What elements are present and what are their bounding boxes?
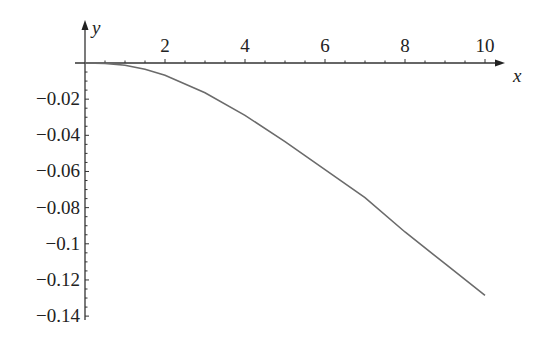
x-axis-label: x xyxy=(512,65,522,86)
y-tick-label: −0.02 xyxy=(36,88,80,109)
y-tick-label: −0.14 xyxy=(36,305,80,326)
tick-labels: 246810−0.02−0.04−0.06−0.08−0.1−0.12−0.14 xyxy=(36,35,494,326)
y-axis-label: y xyxy=(90,17,101,38)
y-tick-label: −0.06 xyxy=(36,160,80,181)
x-tick-label: 2 xyxy=(160,35,170,56)
y-tick-label: −0.04 xyxy=(36,124,80,145)
axes xyxy=(75,20,505,320)
y-tick-label: −0.08 xyxy=(36,197,80,218)
data-curve xyxy=(85,63,485,295)
y-tick-label: −0.1 xyxy=(46,233,80,254)
y-axis-arrow-icon xyxy=(82,20,89,30)
x-tick-label: 8 xyxy=(400,35,410,56)
ticks xyxy=(85,59,485,316)
chart: 246810−0.02−0.04−0.06−0.08−0.1−0.12−0.14… xyxy=(0,0,545,346)
x-axis-arrow-icon xyxy=(495,60,505,67)
y-tick-label: −0.12 xyxy=(36,269,80,290)
x-tick-label: 10 xyxy=(476,35,495,56)
x-tick-label: 6 xyxy=(320,35,330,56)
x-tick-label: 4 xyxy=(240,35,250,56)
